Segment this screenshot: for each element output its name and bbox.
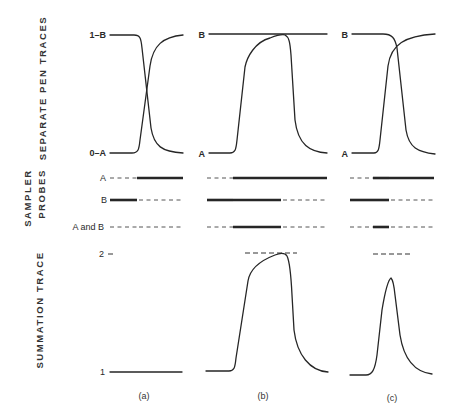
trace-label-top-b: B — [199, 30, 206, 40]
trace-label-top-c: B — [342, 30, 349, 40]
summation-axis: 2 1 — [99, 249, 113, 377]
probe-labels: A B A and B — [72, 173, 107, 232]
pen-traces-panel-a: 1–B 0–A — [89, 30, 183, 158]
row-label-probes: PROBES — [36, 169, 47, 219]
trace-b-falling-c — [352, 34, 435, 154]
panel-label-a: (a) — [139, 391, 150, 401]
trace-label-bottom-b: A — [199, 149, 206, 159]
trace-a-rising-c — [352, 34, 435, 153]
trace-a-pulse-b — [209, 35, 327, 153]
pen-traces-panel-b: B A — [199, 30, 328, 159]
pen-traces-panel-c: B A — [342, 30, 436, 159]
row-label-separate-pen-traces: SEPARATE PEN TRACES — [37, 16, 48, 161]
summation-tick-label-2: 2 — [99, 249, 104, 259]
sampling-diagram: SEPARATE PEN TRACES SAMPLER PROBES SUMMA… — [0, 0, 455, 420]
summation-trace-b — [206, 254, 328, 372]
probe-label-b: B — [101, 195, 107, 205]
trace-label-bottom-a: 0–A — [89, 148, 106, 158]
panel-label-c: (c) — [387, 393, 398, 403]
summation-trace-c — [350, 278, 432, 375]
summation-panel-c — [350, 254, 432, 375]
row-label-sampler: SAMPLER — [22, 169, 33, 227]
probe-lines — [110, 178, 434, 227]
trace-label-top-a: 1–B — [89, 30, 106, 40]
trace-a-rising-a — [110, 35, 183, 153]
probe-label-a: A — [100, 173, 106, 183]
row-label-summation-trace: SUMMATION TRACE — [34, 251, 45, 368]
probe-label-a-and-b: A and B — [72, 222, 104, 232]
panel-label-b: (b) — [258, 391, 269, 401]
trace-label-bottom-c: A — [342, 149, 349, 159]
summation-tick-label-1: 1 — [100, 367, 105, 377]
summation-panel-b — [206, 253, 328, 372]
